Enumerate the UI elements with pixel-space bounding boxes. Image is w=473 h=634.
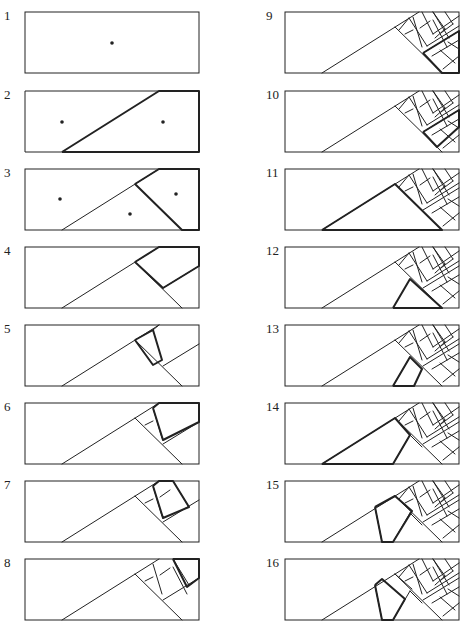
panel-drawing (284, 168, 460, 231)
panel-drawing (284, 558, 460, 621)
panel-number: 15 (266, 478, 279, 491)
panel-5: 5 (24, 324, 200, 387)
panel-drawing (284, 11, 460, 74)
panel-2: 2 (24, 90, 200, 153)
panel-13: 13 (284, 324, 460, 387)
panel-drawing (284, 402, 460, 465)
panel-drawing (284, 480, 460, 543)
panel-7: 7 (24, 480, 200, 543)
panel-number: 7 (4, 478, 11, 491)
panel-number: 9 (266, 9, 273, 22)
panel-number: 10 (266, 88, 279, 101)
panel-drawing (284, 324, 460, 387)
panel-number: 5 (4, 322, 11, 335)
panel-number: 1 (4, 9, 11, 22)
panel-15: 15 (284, 480, 460, 543)
panel-drawing (24, 558, 200, 621)
panel-11: 11 (284, 168, 460, 231)
panel-6: 6 (24, 402, 200, 465)
panel-drawing (24, 246, 200, 309)
panel-3: 3 (24, 168, 200, 231)
panel-drawing (24, 90, 200, 153)
panel-number: 12 (266, 244, 279, 257)
panel-number: 2 (4, 88, 11, 101)
panel-10: 10 (284, 90, 460, 153)
panel-1: 1 (24, 11, 200, 74)
panel-9: 9 (284, 11, 460, 74)
panel-number: 16 (266, 556, 279, 569)
panel-drawing (284, 246, 460, 309)
panel-drawing (24, 324, 200, 387)
panel-number: 11 (266, 166, 279, 179)
panel-12: 12 (284, 246, 460, 309)
panel-number: 14 (266, 400, 279, 413)
panel-number: 6 (4, 400, 11, 413)
panel-number: 13 (266, 322, 279, 335)
panel-number: 4 (4, 244, 11, 257)
panel-drawing (24, 480, 200, 543)
panel-drawing (284, 90, 460, 153)
panel-8: 8 (24, 558, 200, 621)
panel-number: 3 (4, 166, 11, 179)
panel-drawing (24, 11, 200, 74)
panel-number: 8 (4, 556, 11, 569)
panel-drawing (24, 402, 200, 465)
panel-4: 4 (24, 246, 200, 309)
panel-14: 14 (284, 402, 460, 465)
panel-16: 16 (284, 558, 460, 621)
panel-drawing (24, 168, 200, 231)
